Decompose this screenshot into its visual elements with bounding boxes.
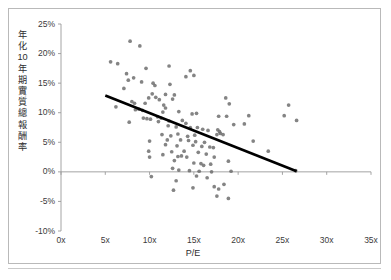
scatter-point: [184, 75, 188, 79]
x-tick-label: 35x: [356, 235, 386, 245]
scatter-point: [212, 155, 216, 159]
scatter-point: [176, 132, 180, 136]
scatter-point: [215, 194, 219, 198]
axes-group: [58, 24, 371, 231]
scatter-point: [191, 143, 195, 147]
scatter-point: [190, 112, 194, 116]
scatter-point: [188, 69, 192, 73]
scatter-point: [116, 62, 120, 66]
y-tick-label: 25%: [23, 19, 55, 29]
y-axis-title: 年化10年期實質總報酬率: [16, 30, 29, 153]
scatter-point: [196, 126, 200, 130]
y-tick-label: 0%: [23, 166, 55, 176]
scatter-point: [161, 153, 165, 157]
scatter-point: [192, 161, 196, 165]
scatter-point: [195, 174, 199, 178]
scatter-point: [165, 138, 169, 142]
scatter-point: [170, 150, 174, 154]
scatter-point: [212, 185, 216, 189]
scatter-point: [173, 159, 177, 163]
scatter-point: [153, 84, 157, 88]
scatter-point: [176, 155, 180, 159]
chart-figure: 25%20%15%10%5%0%-5%-10% 0x5x10x15x20x25x…: [0, 0, 391, 280]
scatter-point: [192, 74, 196, 78]
scatter-point: [222, 182, 226, 186]
trendline-group: [105, 96, 296, 172]
scatter-point: [227, 197, 231, 201]
scatter-point: [187, 139, 191, 143]
x-tick-label: 15x: [179, 235, 209, 245]
scatter-point: [164, 93, 168, 97]
scatter-point: [157, 98, 161, 102]
scatter-point: [132, 76, 136, 80]
scatter-point: [251, 139, 255, 143]
scatter-point: [160, 133, 164, 137]
scatter-point: [224, 96, 228, 100]
x-axis-title: P/E: [163, 248, 223, 258]
scatter-point: [168, 82, 172, 86]
scatter-point: [164, 106, 168, 110]
scatter-point: [282, 114, 286, 118]
x-tick-label: 5x: [90, 235, 120, 245]
scatter-point: [184, 122, 188, 126]
scatter-point: [148, 139, 152, 143]
scatter-point: [174, 179, 178, 183]
scatter-point: [206, 129, 210, 133]
scatter-point: [196, 150, 200, 154]
scatter-point: [188, 169, 192, 173]
scatter-point: [148, 155, 152, 159]
scatter-point: [177, 110, 181, 114]
scatter-point: [204, 152, 208, 156]
scatter-point: [203, 140, 207, 144]
scatter-point: [208, 145, 212, 149]
x-tick-label: 0x: [46, 235, 76, 245]
scatter-point: [217, 187, 221, 191]
scatter-point: [186, 135, 190, 139]
scatter-point: [227, 102, 231, 106]
scatter-point: [295, 119, 299, 123]
scatter-point: [167, 64, 171, 68]
scatter-point: [127, 120, 131, 124]
scatter-point: [126, 78, 130, 82]
y-tick-label: -5%: [23, 196, 55, 206]
scatter-point: [185, 155, 189, 159]
scatter-point: [125, 72, 129, 76]
scatter-point: [140, 80, 144, 84]
scatter-point: [242, 122, 246, 126]
scatter-point: [173, 93, 177, 97]
scatter-point: [195, 111, 199, 115]
scatter-point: [175, 144, 179, 148]
scatter-point: [191, 186, 195, 190]
scatter-point: [219, 132, 223, 136]
scatter-point: [169, 134, 173, 138]
scatter-point: [166, 124, 170, 128]
scatter-point: [179, 138, 183, 142]
scatter-point: [197, 169, 201, 173]
scatter-point: [180, 154, 184, 158]
x-tick-label: 25x: [267, 235, 297, 245]
scatter-point: [209, 162, 213, 166]
scatter-point: [114, 105, 118, 109]
data-points-group: [109, 39, 299, 200]
scatter-point: [210, 170, 214, 174]
scatter-point: [287, 103, 291, 107]
scatter-point: [149, 175, 153, 179]
scatter-point: [143, 101, 147, 105]
scatter-point: [128, 39, 132, 43]
scatter-point: [215, 133, 219, 137]
x-tick-label: 10x: [135, 235, 165, 245]
scatter-point: [149, 117, 153, 121]
scatter-point: [229, 169, 233, 173]
scatter-point: [161, 110, 165, 114]
scatter-point: [211, 146, 215, 150]
scatter-point: [171, 97, 175, 101]
scatter-point: [194, 140, 198, 144]
scatter-point: [180, 119, 184, 123]
scatter-point: [247, 114, 251, 118]
scatter-point: [266, 149, 270, 153]
scatter-point: [227, 159, 231, 163]
scatter-point: [200, 145, 204, 149]
scatter-point: [164, 143, 168, 147]
scatter-point: [217, 114, 221, 118]
scatter-point: [157, 120, 161, 124]
